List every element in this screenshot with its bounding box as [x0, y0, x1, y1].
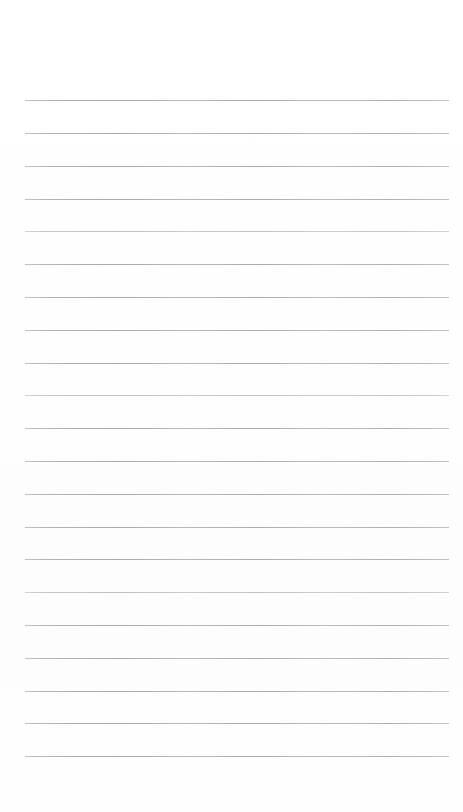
rule-line-7 — [25, 297, 449, 298]
rule-line-21 — [25, 756, 449, 757]
rule-line-9 — [25, 363, 449, 364]
ruled-lines-group — [0, 0, 463, 812]
rule-line-13 — [25, 494, 449, 495]
rule-line-15 — [25, 559, 449, 560]
rule-line-20 — [25, 723, 449, 724]
rule-line-6 — [25, 264, 449, 265]
rule-line-17 — [25, 625, 449, 626]
rule-line-11 — [25, 428, 449, 429]
rule-line-16 — [25, 592, 449, 593]
rule-line-1 — [25, 100, 449, 101]
rule-line-14 — [25, 527, 449, 528]
rule-line-19 — [25, 691, 449, 692]
rule-line-18 — [25, 658, 449, 659]
rule-line-5 — [25, 231, 449, 232]
rule-line-10 — [25, 395, 449, 396]
rule-line-2 — [25, 133, 449, 134]
rule-line-8 — [25, 330, 449, 331]
rule-line-4 — [25, 199, 449, 200]
rule-line-12 — [25, 461, 449, 462]
rule-line-3 — [25, 166, 449, 167]
lined-page — [0, 0, 463, 812]
